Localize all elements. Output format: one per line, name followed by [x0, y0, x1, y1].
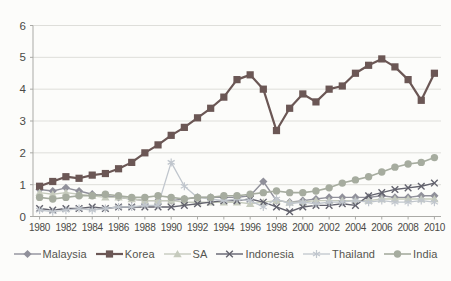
y-axis-tick-label: 0: [20, 211, 26, 223]
x-axis-tick-label: 2004: [345, 222, 367, 233]
asterisk-marker-icon: [303, 248, 330, 260]
gridlines: [33, 26, 441, 185]
legend-item-sa: SA: [164, 248, 208, 260]
x-axis-tick-label: 1992: [187, 222, 209, 233]
legend-item-korea: Korea: [96, 248, 155, 260]
chart-legend: Malaysia Korea SA Indonesia Thailand Ind…: [0, 248, 451, 260]
legend-item-india: India: [384, 248, 437, 260]
legend-label-sa: SA: [193, 248, 208, 260]
circle-marker-icon: [384, 248, 411, 260]
y-axis-tick-label: 2: [20, 147, 26, 159]
x-axis-tick-label: 1990: [161, 222, 183, 233]
x-axis-tick-label: 1998: [266, 222, 288, 233]
line-chart-figure: 0123456198019821984198619881990199219941…: [0, 0, 451, 281]
legend-label-korea: Korea: [125, 248, 155, 260]
x-axis-tick-label: 1980: [29, 222, 51, 233]
legend-label-thailand: Thailand: [332, 248, 375, 260]
triangle-marker-icon: [164, 248, 191, 260]
x-axis-tick-label: 2008: [398, 222, 420, 233]
legend-item-malaysia: Malaysia: [14, 248, 87, 260]
square-marker-icon: [96, 248, 123, 260]
y-axis-tick-label: 4: [20, 83, 27, 95]
legend-item-thailand: Thailand: [303, 248, 375, 260]
x-axis-tick-label: 1994: [213, 222, 235, 233]
legend-label-india: India: [413, 248, 437, 260]
x-axis-tick-label: 1984: [82, 222, 104, 233]
x-axis-tick-label: 1988: [134, 222, 156, 233]
x-marker-icon: [216, 248, 243, 260]
y-axis-tick-label: 5: [20, 51, 26, 63]
x-axis-tick-label: 1996: [240, 222, 262, 233]
plot-area: 0123456198019821984198619881990199219941…: [0, 0, 451, 245]
x-axis-tick-label: 1982: [55, 222, 77, 233]
x-axis-tick-label: 2002: [319, 222, 341, 233]
x-axis-tick-label: 2010: [424, 222, 446, 233]
diamond-marker-icon: [14, 248, 41, 260]
legend-label-malaysia: Malaysia: [43, 248, 87, 260]
series-korea: [36, 55, 438, 190]
legend-label-indonesia: Indonesia: [245, 248, 294, 260]
x-axis-tick-label: 2006: [371, 222, 393, 233]
series-india: [36, 154, 438, 203]
x-axis-tick-label: 2000: [292, 222, 314, 233]
x-axis-tick-label: 1986: [108, 222, 130, 233]
y-axis-tick-label: 1: [20, 179, 26, 191]
legend-item-indonesia: Indonesia: [216, 248, 294, 260]
y-axis-tick-label: 6: [20, 20, 26, 32]
y-axis-tick-label: 3: [20, 115, 26, 127]
